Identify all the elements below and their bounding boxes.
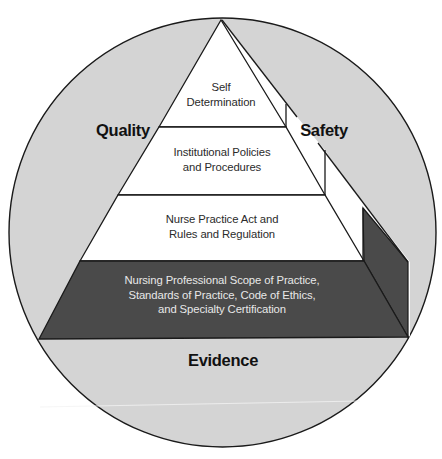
safety-label: Safety (293, 120, 355, 141)
tier-1-label: Self Determination (171, 80, 271, 109)
tier-4-label: Nursing Professional Scope of Practice, … (100, 273, 344, 317)
tier-3-label: Nurse Practice Act and Rules and Regulat… (140, 212, 304, 241)
tier-2-label: Institutional Policies and Procedures (150, 145, 294, 174)
evidence-label: Evidence (178, 350, 268, 371)
quality-label: Quality (88, 120, 158, 141)
pyramid-circle-diagram: Self Determination Institutional Policie… (0, 0, 442, 459)
